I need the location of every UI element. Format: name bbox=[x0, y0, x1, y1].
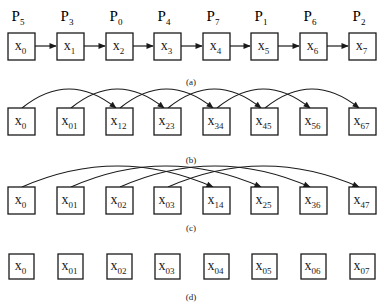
node-label-base: x bbox=[305, 113, 312, 128]
node-box: x0 bbox=[9, 254, 34, 279]
node-label-base: x bbox=[256, 258, 263, 273]
node-label-sub: 0 bbox=[22, 200, 27, 210]
caption-d: (d) bbox=[186, 292, 197, 302]
processor-label: P3 bbox=[61, 8, 74, 27]
node-label-base: x bbox=[15, 113, 22, 128]
node-label-base: x bbox=[307, 38, 314, 53]
arc-edge bbox=[22, 166, 213, 187]
prefix-sum-diagram: P5P3P0P4P7P1P6P2 x0x1x2x3x4x5x6x7 (a) x0… bbox=[0, 0, 384, 307]
caption-b: (b) bbox=[186, 155, 197, 165]
panel-d: x0x01x02x03x04x05x06x07 (d) bbox=[9, 254, 375, 302]
processor-label-sub: 1 bbox=[263, 17, 268, 27]
processor-label-sub: 0 bbox=[118, 17, 123, 27]
node-label-sub: 3 bbox=[168, 46, 173, 56]
nodes-b: x0x01x12x23x34x45x56x67 bbox=[8, 108, 376, 135]
node-label-base: x bbox=[305, 258, 312, 273]
node-label-base: x bbox=[354, 258, 361, 273]
processor-label-base: P bbox=[12, 8, 20, 24]
processor-labels: P5P3P0P4P7P1P6P2 bbox=[12, 8, 366, 27]
node-label-sub: 05 bbox=[263, 266, 273, 276]
processor-label: P4 bbox=[158, 8, 171, 27]
node-label-sub: 45 bbox=[263, 121, 273, 131]
node-label-base: x bbox=[258, 38, 265, 53]
processor-label-base: P bbox=[255, 8, 263, 24]
node-label-sub: 02 bbox=[118, 266, 127, 276]
node-label-sub: 03 bbox=[166, 266, 176, 276]
node-label-base: x bbox=[159, 192, 166, 207]
node-box: x07 bbox=[350, 254, 375, 279]
edges-b bbox=[22, 89, 359, 108]
node-label-sub: 0 bbox=[22, 266, 27, 276]
node-label-base: x bbox=[210, 38, 217, 53]
processor-label: P6 bbox=[304, 8, 317, 27]
node-label-sub: 25 bbox=[263, 200, 273, 210]
node-label-sub: 12 bbox=[118, 121, 127, 131]
processor-label-sub: 6 bbox=[312, 17, 317, 27]
node-label-sub: 01 bbox=[69, 266, 78, 276]
panel-c: x0x01x02x03x14x25x36x47 (c) bbox=[8, 166, 376, 233]
node-label-sub: 01 bbox=[69, 200, 78, 210]
node-box: x0 bbox=[8, 108, 35, 135]
node-label-sub: 06 bbox=[312, 266, 322, 276]
node-box: x34 bbox=[203, 108, 230, 135]
node-box: x03 bbox=[155, 254, 180, 279]
node-label-base: x bbox=[305, 192, 312, 207]
arc-edge bbox=[265, 89, 359, 108]
node-label-sub: 07 bbox=[361, 266, 371, 276]
node-box: x45 bbox=[251, 108, 278, 135]
node-box: x14 bbox=[203, 187, 230, 214]
processor-label: P2 bbox=[353, 8, 366, 27]
caption-a: (a) bbox=[186, 77, 196, 87]
node-label-base: x bbox=[64, 38, 71, 53]
node-label-sub: 2 bbox=[120, 46, 125, 56]
node-box: x36 bbox=[300, 187, 327, 214]
node-box: x02 bbox=[106, 187, 133, 214]
processor-label-base: P bbox=[353, 8, 361, 24]
node-label-sub: 04 bbox=[215, 266, 225, 276]
node-box: x5 bbox=[251, 33, 278, 60]
processor-label-sub: 7 bbox=[215, 17, 220, 27]
processor-label-sub: 2 bbox=[361, 17, 366, 27]
node-label-base: x bbox=[15, 192, 22, 207]
processor-label: P5 bbox=[12, 8, 25, 27]
arc-edge bbox=[168, 166, 359, 187]
processor-label-base: P bbox=[304, 8, 312, 24]
node-label-base: x bbox=[354, 113, 361, 128]
node-label-base: x bbox=[161, 38, 168, 53]
arc-edge bbox=[71, 166, 261, 187]
node-label-sub: 67 bbox=[361, 121, 371, 131]
node-box: x12 bbox=[106, 108, 133, 135]
node-label-base: x bbox=[113, 38, 120, 53]
node-box: x04 bbox=[204, 254, 229, 279]
node-box: x06 bbox=[301, 254, 326, 279]
node-box: x25 bbox=[251, 187, 278, 214]
processor-label-sub: 3 bbox=[69, 17, 74, 27]
node-label-sub: 02 bbox=[118, 200, 127, 210]
node-box: x01 bbox=[58, 254, 83, 279]
node-label-base: x bbox=[62, 113, 69, 128]
node-box: x05 bbox=[252, 254, 277, 279]
node-label-base: x bbox=[354, 192, 361, 207]
node-label-base: x bbox=[256, 113, 263, 128]
node-box: x6 bbox=[300, 33, 327, 60]
node-label-sub: 0 bbox=[22, 121, 27, 131]
node-label-sub: 5 bbox=[265, 46, 270, 56]
node-label-base: x bbox=[356, 38, 363, 53]
node-label-sub: 56 bbox=[312, 121, 322, 131]
panel-b: x0x01x12x23x34x45x56x67 (b) bbox=[8, 89, 376, 165]
processor-label: P0 bbox=[110, 8, 123, 27]
node-label-sub: 1 bbox=[71, 46, 76, 56]
node-label-base: x bbox=[62, 192, 69, 207]
node-label-base: x bbox=[208, 192, 215, 207]
arc-edge bbox=[120, 166, 310, 187]
panel-a: P5P3P0P4P7P1P6P2 x0x1x2x3x4x5x6x7 (a) bbox=[8, 8, 376, 87]
node-box: x3 bbox=[154, 33, 181, 60]
node-label-base: x bbox=[111, 192, 118, 207]
node-box: x56 bbox=[300, 108, 327, 135]
processor-label-base: P bbox=[110, 8, 118, 24]
node-label-base: x bbox=[208, 113, 215, 128]
node-label-sub: 03 bbox=[166, 200, 176, 210]
caption-c: (c) bbox=[186, 223, 196, 233]
node-label-sub: 36 bbox=[312, 200, 322, 210]
node-label-sub: 23 bbox=[166, 121, 176, 131]
